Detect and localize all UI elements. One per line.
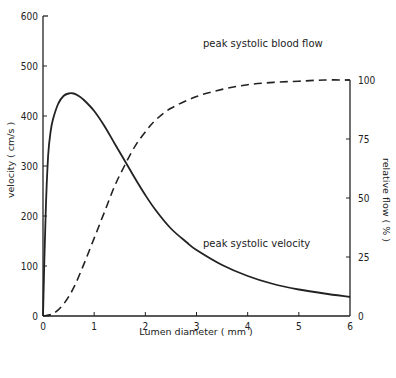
velocity-curve: [43, 93, 350, 316]
y-tick-label: 200: [21, 211, 38, 222]
x-tick-label: 6: [347, 321, 353, 332]
y2-tick-label: 100: [358, 75, 375, 86]
y2-tick-label: 50: [358, 193, 370, 204]
x-axis-title: Lumen diameter ( mm ): [139, 326, 252, 337]
x-tick-label: 0: [40, 321, 46, 332]
x-tick-label: 1: [91, 321, 97, 332]
y2-axis-title: relative flow ( % ): [381, 158, 392, 242]
y-tick-label: 0: [32, 311, 38, 322]
y-tick-label: 400: [21, 111, 38, 122]
chart: 010020030040050060001234560255075100 Lum…: [0, 0, 396, 378]
y-tick-label: 600: [21, 11, 38, 22]
y2-tick-label: 0: [358, 311, 364, 322]
y2-tick-label: 25: [358, 252, 369, 263]
velocity-annotation: peak systolic velocity: [203, 238, 310, 249]
y-tick-label: 300: [21, 161, 38, 172]
blood-flow-curve: [43, 80, 350, 316]
y-tick-label: 100: [21, 261, 38, 272]
x-tick-label: 5: [296, 321, 302, 332]
flow-annotation: peak systolic blood flow: [203, 38, 323, 49]
axes: 010020030040050060001234560255075100: [21, 11, 376, 333]
y-axis-title: velocity ( cm/s ): [5, 122, 16, 198]
y2-tick-label: 75: [358, 134, 369, 145]
y-tick-label: 500: [21, 61, 38, 72]
curves: [43, 80, 350, 316]
